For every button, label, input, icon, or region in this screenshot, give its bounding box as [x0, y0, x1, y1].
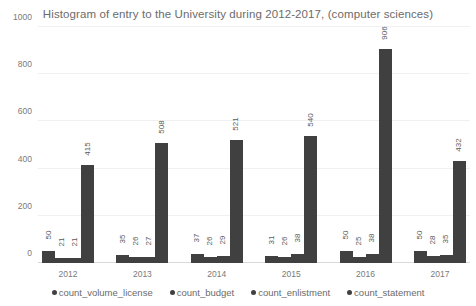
bar-column[interactable]: 31 [265, 27, 278, 263]
bar[interactable] [116, 255, 129, 263]
bar-value-label: 29 [219, 236, 227, 245]
legend-item[interactable]: count_volume_license [52, 287, 153, 298]
legend-label: count_budget [177, 287, 235, 298]
legend-label: count_statement [354, 287, 424, 298]
bar-column[interactable]: 35 [440, 27, 453, 263]
legend-label: count_volume_license [59, 287, 153, 298]
bar-value-label: 508 [158, 120, 166, 133]
bar-value-label: 521 [232, 117, 240, 130]
bar-column[interactable]: 21 [68, 27, 81, 263]
bar-column[interactable]: 50 [340, 27, 353, 263]
bar-value-label: 540 [307, 113, 315, 126]
bar-value-label: 21 [58, 238, 66, 247]
bar-value-label: 432 [455, 138, 463, 151]
legend-item[interactable]: count_budget [170, 287, 235, 298]
y-axis-tick-label: 800 [18, 59, 32, 69]
bar[interactable] [129, 257, 142, 263]
bar-value-label: 26 [206, 236, 214, 245]
bar-column[interactable]: 540 [304, 27, 317, 263]
bar-column[interactable]: 21 [55, 27, 68, 263]
bar-column[interactable]: 50 [414, 27, 427, 263]
bar[interactable] [427, 256, 440, 263]
bar[interactable] [265, 256, 278, 263]
bar-column[interactable]: 28 [427, 27, 440, 263]
bar[interactable] [440, 255, 453, 263]
bar-group: 3526275082013 [116, 27, 168, 263]
y-axis-tick-label: 600 [18, 106, 32, 116]
chart-legend: count_volume_licensecount_budgetcount_en… [0, 287, 476, 298]
bar-column[interactable]: 25 [353, 27, 366, 263]
bar[interactable] [55, 258, 68, 263]
bar-value-label: 35 [442, 234, 450, 243]
bar-column[interactable]: 415 [81, 27, 94, 263]
bar-value-label: 50 [45, 231, 53, 240]
bar[interactable] [42, 251, 55, 263]
bar[interactable] [453, 161, 466, 263]
bar-value-label: 25 [355, 237, 363, 246]
bar[interactable] [366, 254, 379, 263]
x-axis-tick-label: 2013 [116, 269, 168, 279]
bar-column[interactable]: 38 [291, 27, 304, 263]
legend-marker-icon [52, 290, 57, 295]
bar[interactable] [68, 258, 81, 263]
bar[interactable] [340, 251, 353, 263]
bar[interactable] [155, 143, 168, 263]
bar[interactable] [353, 257, 366, 263]
bar[interactable] [204, 257, 217, 263]
bar-column[interactable]: 906 [379, 27, 392, 263]
x-axis-tick-label: 2015 [265, 269, 317, 279]
bar-value-label: 21 [71, 238, 79, 247]
x-axis-tick-label: 2016 [340, 269, 392, 279]
bar-column[interactable]: 50 [42, 27, 55, 263]
bar-column[interactable]: 37 [191, 27, 204, 263]
bar[interactable] [278, 257, 291, 263]
bar-value-label: 38 [368, 234, 376, 243]
x-axis-tick-label: 2014 [191, 269, 243, 279]
bar-value-label: 27 [145, 236, 153, 245]
bar-column[interactable]: 521 [230, 27, 243, 263]
bar-column[interactable]: 508 [155, 27, 168, 263]
x-axis-tick-label: 2017 [414, 269, 466, 279]
bar-value-label: 38 [294, 234, 302, 243]
bar-value-label: 26 [132, 236, 140, 245]
histogram-chart: Histogram of entry to the University dur… [0, 0, 476, 306]
y-axis-tick-label: 0 [27, 248, 32, 258]
bar[interactable] [304, 136, 317, 263]
bar-group: 5021214152012 [42, 27, 94, 263]
bar-column[interactable]: 26 [204, 27, 217, 263]
bar[interactable] [291, 254, 304, 263]
bar-value-label: 35 [119, 234, 127, 243]
bar[interactable] [142, 257, 155, 263]
bar-group: 3726295212014 [191, 27, 243, 263]
bar[interactable] [230, 140, 243, 263]
y-axis-tick-label: 1000 [13, 12, 32, 22]
chart-title: Histogram of entry to the University dur… [0, 8, 476, 20]
bar-group: 3126385402015 [265, 27, 317, 263]
legend-label: count_enlistment [258, 287, 330, 298]
plot-area: 02004006008001000 5021214152012352627508… [38, 27, 470, 263]
legend-item[interactable]: count_enlistment [251, 287, 330, 298]
bar[interactable] [217, 256, 230, 263]
legend-item[interactable]: count_statement [347, 287, 424, 298]
bar[interactable] [81, 165, 94, 263]
bar-value-label: 37 [193, 234, 201, 243]
bar-column[interactable]: 38 [366, 27, 379, 263]
bar[interactable] [379, 49, 392, 263]
bar-groups: 5021214152012352627508201337262952120143… [38, 27, 470, 263]
bar-column[interactable]: 26 [278, 27, 291, 263]
bar-column[interactable]: 35 [116, 27, 129, 263]
bar-column[interactable]: 26 [129, 27, 142, 263]
legend-marker-icon [347, 290, 352, 295]
bar-value-label: 50 [342, 231, 350, 240]
bar[interactable] [414, 251, 427, 263]
bar-column[interactable]: 27 [142, 27, 155, 263]
bar-value-label: 31 [268, 235, 276, 244]
bar-column[interactable]: 29 [217, 27, 230, 263]
bar-value-label: 906 [381, 27, 389, 40]
bar-column[interactable]: 432 [453, 27, 466, 263]
bar-value-label: 26 [281, 236, 289, 245]
y-axis-tick-label: 200 [18, 201, 32, 211]
legend-marker-icon [251, 290, 256, 295]
bar[interactable] [191, 254, 204, 263]
bar-group: 5028354322017 [414, 27, 466, 263]
